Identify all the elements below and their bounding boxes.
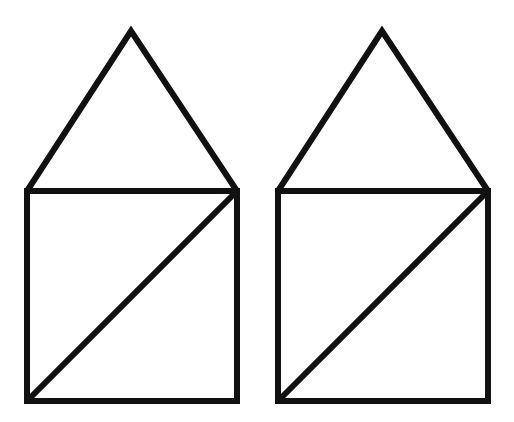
figure-svg: [0, 0, 514, 422]
drawing-canvas: [0, 0, 514, 422]
canvas-background: [0, 0, 514, 422]
